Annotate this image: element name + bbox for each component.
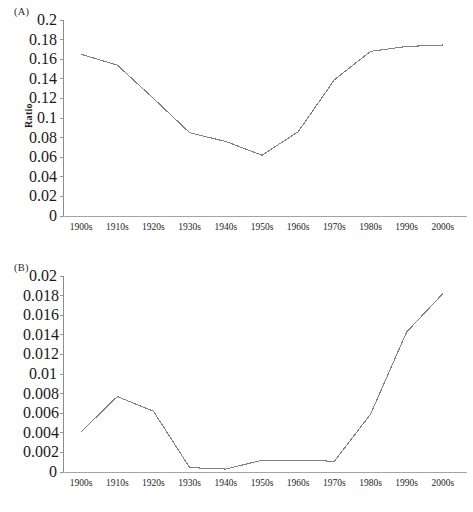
panel-a-x-tick-label: 1900s (70, 223, 93, 233)
panel-b-y-tick-label: 0.014 (23, 327, 57, 343)
panel-b-x-tick-label: 1960s (287, 479, 310, 489)
panel-a-y-tick-label: 0.1 (23, 110, 57, 126)
panel-a-y-tick-label: 0.14 (23, 71, 57, 87)
panel-b-x-tick-label: 1900s (70, 479, 93, 489)
panel-a-y-tick-label: 0.04 (23, 169, 57, 185)
panel-b-x-tick-label: 1910s (106, 479, 129, 489)
panel-b-y-tick-label: 0 (23, 464, 57, 480)
panel-b-x-tick-label: 1940s (214, 479, 237, 489)
panel-a: (A) Ratio 00.020.040.060.080.10.120.140.… (0, 0, 473, 256)
panel-a-x-tick-label: 1990s (395, 223, 418, 233)
panel-a-svg (0, 0, 473, 256)
panel-a-x-tick-label: 1950s (251, 223, 274, 233)
panel-a-data-line (81, 45, 443, 155)
panel-a-y-tick-label: 0.12 (23, 90, 57, 106)
panel-b-y-tick-label: 0.016 (23, 307, 57, 323)
panel-b-data-line (81, 294, 443, 469)
panel-b-x-tick-label: 1980s (359, 479, 382, 489)
panel-a-x-tick-label: 1970s (323, 223, 346, 233)
panel-b-y-tick-label: 0.01 (23, 366, 57, 382)
panel-b-x-tick-label: 1930s (178, 479, 201, 489)
panel-a-y-tick-label: 0.2 (23, 12, 57, 28)
panel-a-y-tick-label: 0.16 (23, 51, 57, 67)
panel-b-x-tick-label: 1990s (395, 479, 418, 489)
panel-a-x-tick-label: 1960s (287, 223, 310, 233)
panel-b-x-tick-label: 2000s (432, 479, 455, 489)
panel-b-x-tick-label: 1920s (142, 479, 165, 489)
panel-a-y-tick-label: 0.06 (23, 149, 57, 165)
panel-b-svg (0, 256, 473, 512)
panel-b-y-tick-label: 0.012 (23, 346, 57, 362)
panel-b-y-tick-label: 0.018 (23, 288, 57, 304)
panel-b-x-tick-label: 1950s (251, 479, 274, 489)
panel-b-x-tick-label: 1970s (323, 479, 346, 489)
panel-b-y-tick-label: 0.02 (23, 268, 57, 284)
panel-b-y-tick-label: 0.002 (23, 444, 57, 460)
panel-a-y-tick-label: 0.02 (23, 188, 57, 204)
panel-b: (B) Ratio 00.0020.0040.0060.0080.010.012… (0, 256, 473, 512)
panel-b-y-tick-label: 0.004 (23, 425, 57, 441)
panel-a-x-tick-label: 1940s (214, 223, 237, 233)
panel-a-y-tick-label: 0.18 (23, 32, 57, 48)
panel-a-x-tick-label: 1910s (106, 223, 129, 233)
panel-b-y-tick-label: 0.008 (23, 386, 57, 402)
panel-a-x-tick-label: 1980s (359, 223, 382, 233)
panel-b-y-tick-label: 0.006 (23, 405, 57, 421)
panel-a-x-tick-label: 1920s (142, 223, 165, 233)
panel-a-x-tick-label: 2000s (432, 223, 455, 233)
panel-a-x-tick-label: 1930s (178, 223, 201, 233)
panel-a-y-tick-label: 0 (23, 208, 57, 224)
panel-a-y-tick-label: 0.08 (23, 130, 57, 146)
